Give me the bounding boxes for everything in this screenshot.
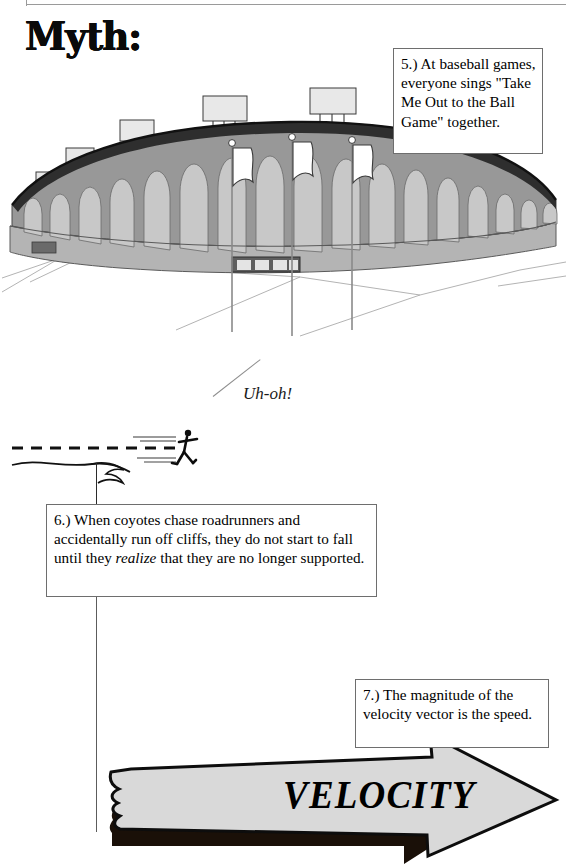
callout-6-pointer-upper (96, 463, 97, 505)
uh-oh-label: Uh-oh! (243, 384, 292, 404)
callout-box-6: 6.) When coyotes chase roadrunners and a… (46, 504, 377, 597)
document-page: Myth: (0, 0, 568, 864)
callout-box-6-emphasis: realize (116, 549, 157, 566)
page-top-rule-tick (26, 0, 27, 6)
velocity-label: VELOCITY (283, 772, 476, 818)
page-top-rule (26, 4, 566, 5)
callout-box-5: 5.) At baseball games, everyone sings "T… (393, 48, 543, 154)
callout-box-6-text-after: that they are no longer supported. (156, 549, 364, 566)
callout-box-7-text: 7.) The magnitude of the velocity vector… (363, 686, 532, 722)
callout-box-7: 7.) The magnitude of the velocity vector… (355, 679, 549, 748)
callout-6-pointer-lower (96, 597, 97, 832)
page-title: Myth: (25, 14, 141, 58)
callout-box-5-text: 5.) At baseball games, everyone sings "T… (401, 55, 536, 130)
